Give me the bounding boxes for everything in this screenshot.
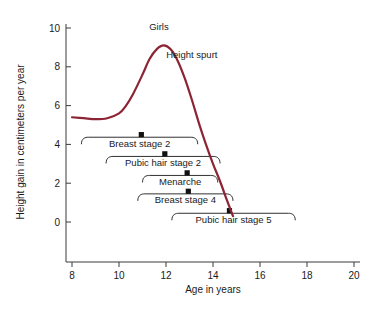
x-tick-label: 10 xyxy=(113,270,125,281)
y-axis-title: Height gain in centimeters per year xyxy=(15,64,26,220)
y-tick-label: 8 xyxy=(54,61,60,72)
x-tick-label: 12 xyxy=(160,270,172,281)
x-tick-label: 16 xyxy=(254,270,266,281)
y-tick-label: 4 xyxy=(54,139,60,150)
median-age-marker xyxy=(186,189,191,194)
x-axis-title: Age in years xyxy=(185,284,241,295)
y-tick-label: 6 xyxy=(54,100,60,111)
girls-curve-label: Girls xyxy=(149,21,169,32)
x-tick-label: 18 xyxy=(301,270,313,281)
y-tick-label: 2 xyxy=(54,178,60,189)
median-age-marker xyxy=(162,151,167,156)
median-age-marker xyxy=(139,132,144,137)
y-tick-label: 10 xyxy=(49,23,61,34)
y-tick-label: 0 xyxy=(54,217,60,228)
event-bar-label: Breast stage 4 xyxy=(155,194,216,205)
event-bar-label: Pubic hair stage 2 xyxy=(125,157,201,168)
chart-figure: 0246810 8101214161820 Height gain in cen… xyxy=(0,0,377,320)
median-age-marker xyxy=(185,170,190,175)
x-tick-label: 14 xyxy=(207,270,219,281)
height-spurt-label: Height spurt xyxy=(166,49,218,60)
event-bar-label: Breast stage 2 xyxy=(109,138,170,149)
growth-velocity-chart: 0246810 8101214161820 Height gain in cen… xyxy=(0,0,377,320)
x-tick-label: 8 xyxy=(69,270,75,281)
event-bar-label: Menarche xyxy=(159,176,201,187)
x-tick-label: 20 xyxy=(348,270,360,281)
